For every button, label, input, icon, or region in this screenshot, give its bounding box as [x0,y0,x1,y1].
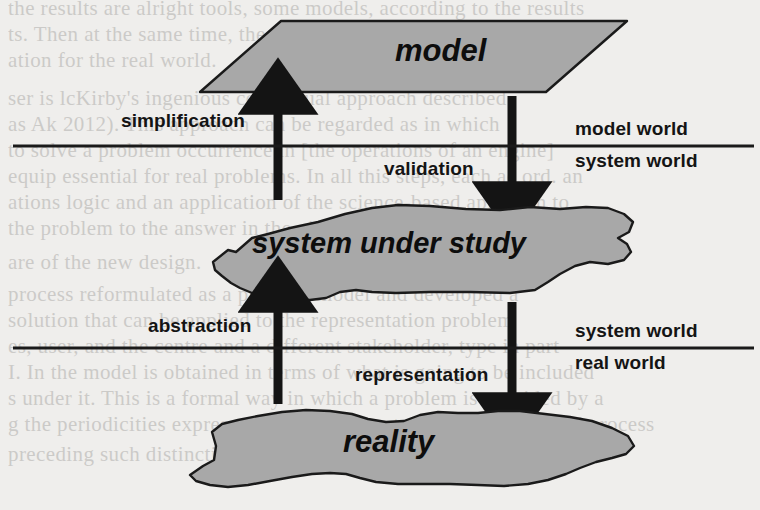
model-world-label: model world [575,118,688,140]
abstraction-label: abstraction [148,315,252,337]
real-world-label: real world [575,352,666,374]
simplification-label: simplification [121,110,245,132]
system-world-label-upper: system world [575,150,698,172]
representation-label: representation [355,364,488,386]
validation-label: validation [384,158,474,180]
model-system-reality-diagram: the results are alright tools, some mode… [0,0,760,510]
reality-label: reality [343,424,434,460]
system-world-label-lower: system world [575,320,698,342]
system-under-study-label: system under study [252,227,526,260]
model-label: model [395,33,486,69]
